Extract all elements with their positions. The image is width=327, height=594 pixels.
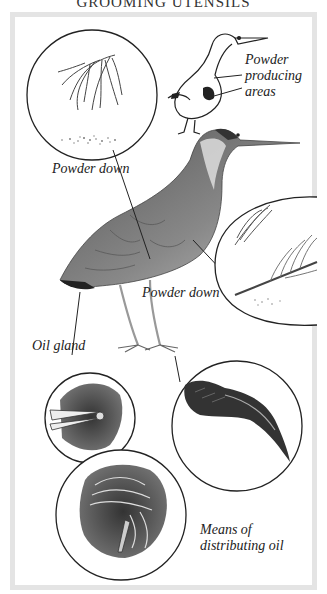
powder-area-marker [171, 92, 180, 99]
powder-area-marker [203, 87, 214, 100]
label-means-of-distributing-oil: Means of distributing oil [200, 522, 284, 554]
label-line: distributing oil [200, 538, 284, 554]
powder-down-feather-circle [27, 30, 157, 160]
comb-claw-circle [172, 361, 302, 491]
label-line: Powder [245, 52, 302, 68]
label-line: areas [245, 84, 302, 100]
feather-detail-circle [215, 197, 317, 325]
preening-circle [56, 450, 186, 580]
label-oil-gland: Oil gland [32, 338, 85, 354]
label-line: Means of [200, 522, 284, 538]
label-powder-down-right: Powder down [142, 285, 219, 301]
label-line: producing [245, 68, 302, 84]
label-powder-down-left: Powder down [52, 161, 129, 177]
label-powder-producing-areas: Powder producing areas [245, 52, 302, 100]
